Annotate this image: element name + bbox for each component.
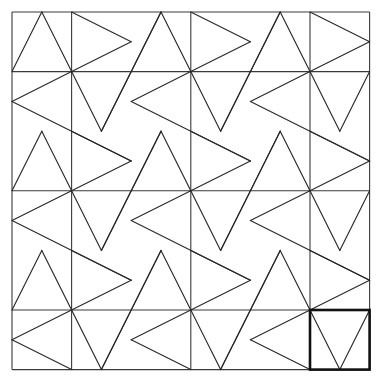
triangle-edge	[310, 161, 370, 191]
triangle-edge	[191, 131, 251, 161]
triangle-edge	[42, 131, 72, 191]
triangle-edge	[280, 12, 310, 72]
triangle-edge	[280, 131, 310, 191]
triangle-edge	[310, 72, 340, 132]
triangle-edge	[250, 340, 310, 370]
triangle-edge	[12, 72, 72, 102]
triangle-edge	[310, 131, 370, 161]
triangle-edge	[72, 12, 132, 42]
triangle-edge	[340, 310, 370, 370]
triangle-edge	[72, 131, 132, 161]
triangle-edge	[191, 161, 251, 191]
triangle-edge	[310, 280, 370, 310]
triangle-edge	[131, 72, 191, 102]
triangle-edge	[72, 191, 102, 251]
triangle-edge	[72, 161, 132, 191]
triangle-edge	[12, 310, 72, 340]
triangle-edge	[72, 280, 132, 310]
triangle-edge	[280, 250, 310, 310]
highlighted-unit-square	[310, 310, 370, 370]
triangle-edge	[191, 280, 251, 310]
triangle-edge	[12, 12, 42, 72]
bold-unit-square	[310, 310, 370, 370]
triangle-edge	[340, 191, 370, 251]
triangle-edge	[72, 42, 132, 72]
triangle-edge	[250, 310, 310, 340]
triangle-edge	[42, 12, 72, 72]
triangle-edge	[161, 250, 191, 310]
triangle-edge	[310, 310, 340, 370]
triangle-edge	[131, 191, 191, 221]
triangle-edge	[12, 340, 72, 370]
triangle-edge	[131, 340, 191, 370]
triangle-edge	[12, 250, 42, 310]
triangle-edge	[72, 250, 132, 280]
triangle-edge	[72, 310, 102, 370]
triangle-edge	[191, 42, 251, 72]
triangle-edge	[12, 131, 42, 191]
triangle-edge	[191, 72, 221, 132]
triangle-edge	[161, 131, 191, 191]
triangle-edge	[191, 12, 251, 42]
triangle-edge	[191, 191, 221, 251]
triangle-edge	[12, 191, 72, 221]
triangle-edge	[131, 310, 191, 340]
triangle-edge	[161, 12, 191, 72]
tessellation-diagram	[0, 0, 382, 379]
triangle-edge	[310, 42, 370, 72]
triangle-edge	[250, 191, 310, 221]
triangle-edge	[72, 72, 102, 132]
triangle-edge	[310, 250, 370, 280]
triangle-edge	[310, 191, 340, 251]
triangle-edge	[340, 72, 370, 132]
triangle-edge	[42, 250, 72, 310]
triangle-edge	[191, 250, 251, 280]
triangle-edge	[191, 310, 221, 370]
triangle-edge	[250, 72, 310, 102]
triangle-edge	[310, 12, 370, 42]
